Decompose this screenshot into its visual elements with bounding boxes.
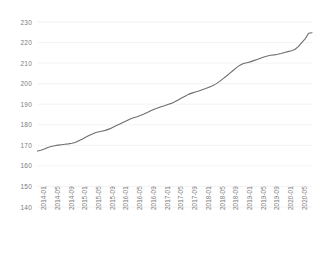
x-tick-label-2018-01: 2018-01 — [205, 186, 212, 210]
x-tick-label-2015-01: 2015-01 — [81, 186, 88, 210]
x-tick-label-2014-01: 2014-01 — [40, 186, 47, 210]
y-tick-label-230: 230 — [10, 19, 32, 26]
x-tick-label-2016-09: 2016-09 — [150, 186, 157, 210]
x-tick-label-2015-09: 2015-09 — [109, 186, 116, 210]
data-line-index — [38, 33, 313, 151]
plot-area — [0, 0, 335, 256]
x-tick-label-2014-09: 2014-09 — [68, 186, 75, 210]
y-tick-label-220: 220 — [10, 39, 32, 46]
x-tick-label-2018-05: 2018-05 — [219, 186, 226, 210]
x-tick-label-2016-05: 2016-05 — [136, 186, 143, 210]
x-tick-label-2020-01: 2020-01 — [287, 186, 294, 210]
x-tick-label-2018-09: 2018-09 — [232, 186, 239, 210]
y-tick-label-140: 140 — [10, 204, 32, 211]
y-tick-label-200: 200 — [10, 80, 32, 87]
x-tick-label-2017-01: 2017-01 — [164, 186, 171, 210]
data-series-group — [38, 33, 313, 151]
y-tick-label-160: 160 — [10, 162, 32, 169]
x-tick-label-2019-01: 2019-01 — [246, 186, 253, 210]
x-tick-label-2019-05: 2019-05 — [260, 186, 267, 210]
y-tick-label-170: 170 — [10, 142, 32, 149]
x-tick-label-2015-05: 2015-05 — [95, 186, 102, 210]
x-tick-label-2016-01: 2016-01 — [122, 186, 129, 210]
x-tick-label-2020-05: 2020-05 — [301, 186, 308, 210]
x-tick-label-2014-05: 2014-05 — [54, 186, 61, 210]
x-tick-label-2017-09: 2017-09 — [191, 186, 198, 210]
gridlines-group — [38, 22, 313, 207]
y-tick-label-190: 190 — [10, 101, 32, 108]
x-tick-label-2017-05: 2017-05 — [177, 186, 184, 210]
x-tick-label-2019-09: 2019-09 — [273, 186, 280, 210]
y-tick-label-180: 180 — [10, 121, 32, 128]
line-chart: 140150160170180190200210220230 2014-0120… — [0, 0, 335, 256]
y-tick-label-150: 150 — [10, 183, 32, 190]
y-tick-label-210: 210 — [10, 60, 32, 67]
